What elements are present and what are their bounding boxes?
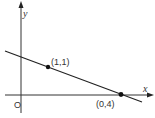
y-axis-arrowhead	[19, 1, 24, 8]
point-0-4-marker	[119, 92, 124, 97]
point-0-4-label: (0,4)	[96, 99, 115, 109]
x-axis-label: x	[142, 83, 148, 94]
y-axis-label: y	[22, 8, 28, 19]
point-1-1-marker	[46, 65, 50, 69]
point-1-1-label: (1,1)	[51, 57, 70, 67]
origin-label: O	[14, 100, 21, 110]
x-axis-arrowhead	[147, 93, 154, 98]
coordinate-diagram: y x O (1,1) (0,4)	[0, 0, 155, 118]
